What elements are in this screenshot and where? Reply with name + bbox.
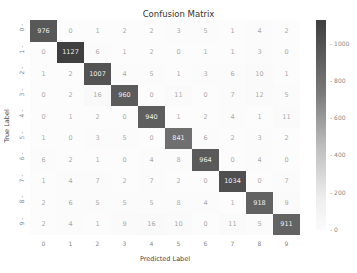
- heatmap-cell: 940: [138, 106, 165, 128]
- heatmap-cell: 1: [84, 149, 111, 171]
- heatmap-cell: 2: [111, 171, 138, 193]
- heatmap-cell: 10: [246, 63, 273, 85]
- heatmap-cell: 2: [192, 106, 219, 128]
- x-tick-label: 8: [246, 240, 273, 247]
- heatmap-cell: 0: [219, 149, 246, 171]
- x-tick-label: 5: [165, 240, 192, 247]
- heatmap-cell: 3: [165, 20, 192, 42]
- heatmap-cell: 7: [138, 171, 165, 193]
- heatmap-cell: 964: [192, 149, 219, 171]
- heatmap-cell: 0: [192, 85, 219, 107]
- heatmap-cell: 4: [111, 63, 138, 85]
- y-tick-label: 5 -: [18, 131, 25, 145]
- heatmap-cell: 1: [219, 192, 246, 214]
- heatmap-cell: 3: [192, 63, 219, 85]
- heatmap-cell: 918: [246, 192, 273, 214]
- y-axis-label: True Label: [3, 109, 11, 142]
- colorbar-tick-label: - 800: [330, 77, 346, 84]
- heatmap-cell: 0: [273, 149, 300, 171]
- heatmap-cell: 6: [219, 63, 246, 85]
- heatmap-cell: 11: [165, 85, 192, 107]
- y-tick-label: 0 -: [18, 24, 25, 38]
- heatmap-cell: 0: [30, 85, 57, 107]
- y-tick-label: 6 -: [18, 153, 25, 167]
- heatmap-cell: 6: [57, 192, 84, 214]
- x-tick-label: 3: [111, 240, 138, 247]
- heatmap-cell: 1: [165, 63, 192, 85]
- heatmap-cell: 16: [84, 85, 111, 107]
- heatmap-cell: 2: [165, 171, 192, 193]
- heatmap-cell: 2: [30, 214, 57, 236]
- heatmap-cell: 841: [165, 128, 192, 150]
- heatmap-cell: 4: [219, 106, 246, 128]
- heatmap-cell: 5: [273, 85, 300, 107]
- heatmap-cell: 9: [273, 192, 300, 214]
- heatmap-cell: 9: [111, 214, 138, 236]
- heatmap-cell: 960: [111, 85, 138, 107]
- heatmap-cell: 0: [246, 171, 273, 193]
- heatmap-cell: 911: [273, 214, 300, 236]
- heatmap-cell: 6: [30, 149, 57, 171]
- chart-title: Confusion Matrix: [0, 9, 357, 19]
- heatmap-cell: 0: [273, 42, 300, 64]
- heatmap-cell: 5: [192, 20, 219, 42]
- heatmap-cell: 4: [246, 20, 273, 42]
- heatmap-cell: 7: [273, 171, 300, 193]
- heatmap-cell: 0: [111, 106, 138, 128]
- heatmap-cell: 5: [138, 192, 165, 214]
- heatmap-cell: 6: [84, 42, 111, 64]
- y-tick-label: 9 -: [18, 217, 25, 231]
- heatmap-cell: 1: [30, 128, 57, 150]
- heatmap-cell: 7: [84, 171, 111, 193]
- heatmap-cell: 1034: [219, 171, 246, 193]
- heatmap-cell: 1: [219, 42, 246, 64]
- heatmap-cell: 0: [30, 106, 57, 128]
- heatmap-cell: 5: [84, 192, 111, 214]
- x-tick-label: 0: [30, 240, 57, 247]
- colorbar-tick-label: - 600: [330, 114, 346, 121]
- heatmap-cell: 2: [273, 128, 300, 150]
- colorbar-tick-label: - 1000: [330, 40, 349, 47]
- heatmap-cell: 12: [246, 85, 273, 107]
- heatmap-cell: 11: [219, 214, 246, 236]
- x-axis-label: Predicted Label: [30, 255, 300, 263]
- heatmap-cell: 0: [138, 128, 165, 150]
- x-tick-label: 4: [138, 240, 165, 247]
- heatmap-cell: 3: [84, 128, 111, 150]
- colorbar-tick-label: - 200: [330, 189, 346, 196]
- heatmap-cell: 11: [273, 106, 300, 128]
- heatmap-cell: 7: [219, 85, 246, 107]
- heatmap-cell: 0: [57, 20, 84, 42]
- heatmap-cell: 2: [57, 63, 84, 85]
- heatmap-cell: 5: [111, 192, 138, 214]
- heatmap-cell: 5: [138, 63, 165, 85]
- heatmap-cell: 2: [111, 20, 138, 42]
- heatmap-cell: 6: [192, 128, 219, 150]
- heatmap-cell: 0: [57, 128, 84, 150]
- heatmap-cell: 0: [111, 149, 138, 171]
- heatmap-cell: 4: [57, 214, 84, 236]
- heatmap-cell: 4: [57, 171, 84, 193]
- colorbar-tick-label: - 400: [330, 151, 346, 158]
- heatmap-cell: 2: [57, 149, 84, 171]
- heatmap-cell: 1007: [84, 63, 111, 85]
- heatmap-cell: 16: [138, 214, 165, 236]
- heatmap-cell: 0: [138, 85, 165, 107]
- x-tick-label: 2: [84, 240, 111, 247]
- heatmap-cell: 8: [165, 192, 192, 214]
- heatmap-cell: 2: [84, 106, 111, 128]
- heatmap-cell: 1: [192, 42, 219, 64]
- heatmap-cell: 2: [219, 128, 246, 150]
- heatmap-cell: 2: [57, 85, 84, 107]
- heatmap-cell: 1: [165, 106, 192, 128]
- heatmap-cell: 1: [30, 63, 57, 85]
- heatmap-cell: 5: [246, 214, 273, 236]
- heatmap-cell: 5: [111, 128, 138, 150]
- y-tick-label: 4 -: [18, 110, 25, 124]
- heatmap-cell: 1: [273, 63, 300, 85]
- heatmap-cell: 2: [30, 192, 57, 214]
- y-tick-label: 7 -: [18, 174, 25, 188]
- heatmap-cell: 0: [30, 42, 57, 64]
- heatmap-cell: 3: [246, 128, 273, 150]
- heatmap-cell: 1: [111, 42, 138, 64]
